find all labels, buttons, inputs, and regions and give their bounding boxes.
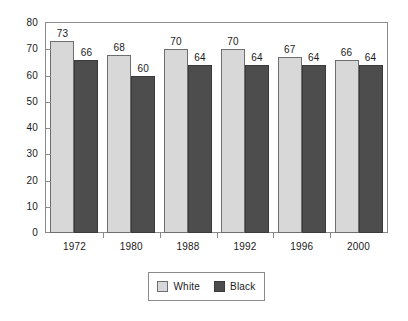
- bar-group: 6664: [330, 23, 387, 233]
- legend-label-black: Black: [230, 281, 255, 292]
- bar-value-label: 64: [184, 53, 216, 63]
- y-tick-mark: [45, 181, 51, 182]
- legend: White Black: [148, 272, 265, 301]
- y-tick-label: 30: [0, 149, 38, 159]
- bar-value-label: 66: [70, 48, 102, 58]
- y-tick-label: 70: [0, 44, 38, 54]
- bar-value-label: 64: [355, 53, 387, 63]
- y-tick-label: 40: [0, 123, 38, 133]
- x-tick-mark: [330, 233, 331, 238]
- bar-value-label: 70: [160, 37, 192, 47]
- white-swatch-icon: [157, 281, 168, 292]
- x-tick-mark: [160, 233, 161, 238]
- bar-white-1980: [107, 55, 131, 234]
- y-tick-label: 50: [0, 97, 38, 107]
- x-tick-label-1972: 1972: [46, 241, 103, 252]
- bar-group: 7064: [217, 23, 274, 233]
- y-tick-label: 0: [0, 228, 38, 238]
- bar-black-1996: [302, 65, 326, 233]
- y-tick-label: 10: [0, 202, 38, 212]
- legend-label-white: White: [173, 281, 200, 292]
- legend-entry-black: Black: [214, 281, 255, 292]
- y-tick-mark: [45, 207, 51, 208]
- y-tick-mark: [45, 154, 51, 155]
- x-tick-label-2000: 2000: [330, 241, 387, 252]
- black-swatch-icon: [214, 281, 225, 292]
- y-tick-mark: [45, 49, 51, 50]
- y-tick-mark: [45, 76, 51, 77]
- x-tick-label-1988: 1988: [160, 241, 217, 252]
- y-tick-label: 80: [0, 18, 38, 28]
- y-axis: 01020304050607080: [0, 0, 40, 321]
- x-tick-mark: [103, 233, 104, 238]
- bar-group: 6764: [273, 23, 330, 233]
- bar-black-1988: [188, 65, 212, 233]
- y-tick-mark: [45, 102, 51, 103]
- x-tick-label-1980: 1980: [103, 241, 160, 252]
- bar-value-label: 73: [46, 29, 78, 39]
- bar-black-1972: [74, 60, 98, 233]
- bar-black-1992: [245, 65, 269, 233]
- x-tick-label-1992: 1992: [217, 241, 274, 252]
- bar-black-1980: [131, 76, 155, 234]
- bar-group: 7366: [46, 23, 103, 233]
- bar-white-1972: [50, 41, 74, 233]
- y-tick-label: 60: [0, 71, 38, 81]
- x-tick-label-1996: 1996: [273, 241, 330, 252]
- bar-value-label: 68: [103, 43, 135, 53]
- x-tick-mark: [217, 233, 218, 238]
- bar-white-2000: [335, 60, 359, 233]
- bar-black-2000: [359, 65, 383, 233]
- bar-white-1996: [278, 57, 302, 233]
- legend-entry-white: White: [157, 281, 200, 292]
- bars-layer: 736668607064706467646664: [46, 23, 387, 233]
- bar-value-label: 64: [241, 53, 273, 63]
- bar-white-1992: [221, 49, 245, 233]
- bar-group: 6860: [103, 23, 160, 233]
- bar-value-label: 60: [127, 64, 159, 74]
- bar-value-label: 70: [217, 37, 249, 47]
- bar-chart: 01020304050607080 7366686070647064676466…: [0, 0, 408, 321]
- bar-white-1988: [164, 49, 188, 233]
- bar-group: 7064: [160, 23, 217, 233]
- y-tick-mark: [45, 128, 51, 129]
- y-tick-label: 20: [0, 176, 38, 186]
- x-tick-mark: [273, 233, 274, 238]
- bar-value-label: 64: [298, 53, 330, 63]
